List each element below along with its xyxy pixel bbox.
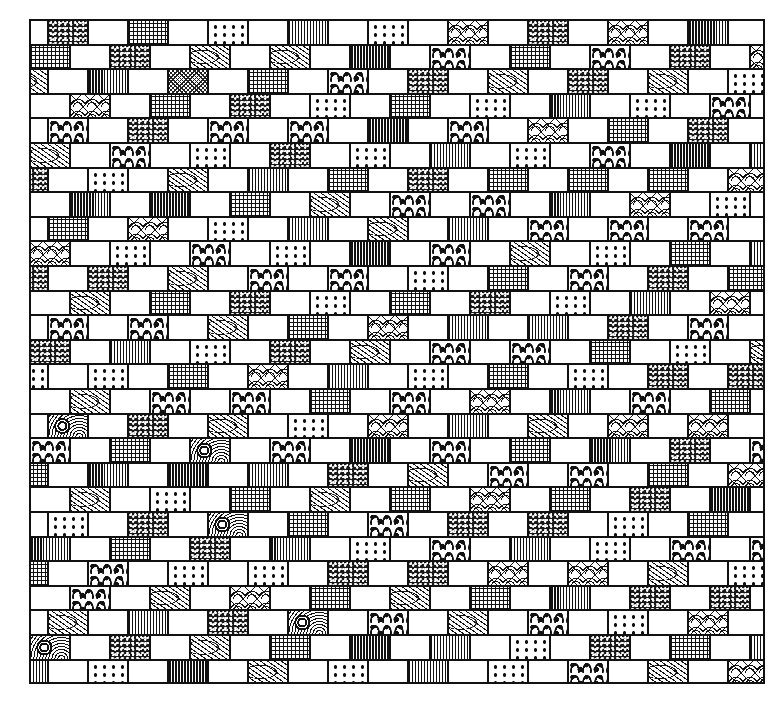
brick-plain-white — [31, 95, 71, 120]
brick-floral-arc — [631, 193, 671, 218]
brick-plain-white — [751, 587, 765, 612]
brick-plain-white — [511, 587, 551, 612]
brick-grid-check — [391, 95, 431, 120]
brick-plain-white — [169, 316, 209, 341]
brick-plain-white — [231, 538, 271, 563]
brick-plain-white — [369, 70, 409, 95]
brick-row — [31, 488, 763, 513]
brick-grid-check — [111, 439, 151, 464]
brick-grid-check — [591, 341, 631, 366]
brick-medallion — [31, 636, 71, 661]
brick-plain-white — [191, 292, 231, 317]
brick-speckled — [209, 611, 249, 636]
brick-speckled — [631, 587, 671, 612]
brick-plain-white — [471, 538, 511, 563]
brick-plain-white — [551, 439, 591, 464]
brick-leaf — [489, 70, 529, 95]
brick-speckled — [609, 316, 649, 341]
brick-vertical-stripes — [551, 587, 591, 612]
brick-row — [31, 21, 763, 46]
brick-plain-white — [329, 119, 369, 144]
brick-plain-white — [591, 390, 631, 415]
brick-plain-white — [711, 144, 751, 169]
brick-leaf — [29, 70, 49, 95]
brick-row — [31, 316, 763, 341]
brick-vertical-stripes — [409, 661, 449, 684]
brick-plain-white — [31, 292, 71, 317]
brick-plain-white — [729, 415, 765, 440]
brick-plain-white — [71, 439, 111, 464]
brick-leaf — [151, 587, 191, 612]
brick-speckled — [129, 513, 169, 538]
brick-plain-white — [351, 587, 391, 612]
brick-plain-white — [489, 611, 529, 636]
brick-speckled — [631, 488, 671, 513]
brick-plain-white — [29, 611, 49, 636]
brick-row — [31, 95, 763, 120]
brick-polka-dots — [591, 242, 631, 267]
brick-grid-check — [489, 365, 529, 390]
brick-plain-white — [689, 365, 729, 390]
brick-blob-spots — [231, 390, 271, 415]
brick-plain-white — [609, 464, 649, 489]
brick-vertical-stripes — [249, 464, 289, 489]
brick-plain-white — [89, 415, 129, 440]
brick-vertical-stripes — [351, 439, 391, 464]
brick-row — [31, 46, 763, 71]
brick-plain-white — [151, 341, 191, 366]
brick-plain-white — [689, 661, 729, 684]
brick-plain-white — [191, 587, 231, 612]
brick-plain-white — [711, 439, 751, 464]
brick-plain-white — [151, 46, 191, 71]
brick-grid-check — [511, 439, 551, 464]
brick-blob-spots — [49, 119, 89, 144]
brick-polka-dots — [591, 538, 631, 563]
brick-plain-white — [89, 611, 129, 636]
brick-plain-white — [111, 390, 151, 415]
brick-plain-white — [71, 242, 111, 267]
brick-plain-white — [89, 218, 129, 243]
brick-vertical-stripes — [591, 439, 631, 464]
brick-plain-white — [249, 218, 289, 243]
brick-polka-dots — [631, 95, 671, 120]
brick-floral-arc — [71, 95, 111, 120]
brick-plain-white — [129, 365, 169, 390]
brick-grid-check — [29, 562, 49, 587]
brick-grid-check — [471, 587, 511, 612]
brick-row — [31, 513, 763, 538]
brick-speckled — [649, 267, 689, 292]
brick-plain-white — [391, 538, 431, 563]
brick-plain-white — [729, 316, 765, 341]
brick-plain-white — [591, 488, 631, 513]
brick-polka-dots — [271, 242, 311, 267]
brick-blob-spots — [569, 267, 609, 292]
brick-plain-white — [151, 538, 191, 563]
brick-plain-white — [609, 169, 649, 194]
brick-floral-arc — [689, 415, 729, 440]
brick-row — [31, 242, 763, 267]
brick-speckled — [329, 562, 369, 587]
brick-blob-spots — [689, 316, 729, 341]
brick-floral-arc — [729, 169, 765, 194]
brick-plain-white — [49, 464, 89, 489]
brick-plain-white — [409, 218, 449, 243]
brick-vertical-stripes — [711, 488, 751, 513]
brick-speckled — [729, 365, 765, 390]
brick-plain-white — [751, 292, 765, 317]
brick-row — [31, 562, 763, 587]
brick-floral-arc — [751, 46, 765, 71]
brick-polka-dots — [729, 70, 765, 95]
brick-speckled — [449, 513, 489, 538]
brick-plain-white — [29, 119, 49, 144]
brick-blob-spots — [449, 119, 489, 144]
brick-blob-spots — [209, 119, 249, 144]
brick-polka-dots — [209, 218, 249, 243]
brick-blob-spots — [151, 390, 191, 415]
brick-blob-spots — [591, 144, 631, 169]
brick-grid-check — [609, 119, 649, 144]
brick-leaf — [271, 46, 311, 71]
brick-blob-spots — [191, 242, 231, 267]
brick-plain-white — [29, 21, 49, 46]
brick-plain-white — [431, 390, 471, 415]
brick-plain-white — [231, 144, 271, 169]
